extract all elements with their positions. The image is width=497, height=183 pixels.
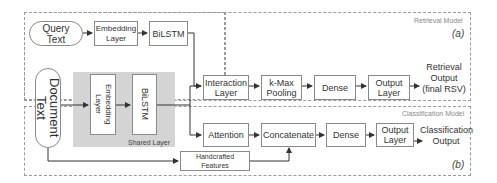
retrieval-dense-node: Dense (314, 75, 356, 100)
concatenate-node: Concatenate (261, 123, 316, 147)
interaction-layer-node: Interaction Layer (203, 75, 249, 100)
document-text-node: Document Text (35, 68, 61, 148)
query-text-node: Query Text (29, 21, 83, 46)
query-bilstm-node: BiLSTM (149, 21, 188, 46)
query-embedding-layer-node: Embedding Layer (94, 21, 138, 46)
shared-bilstm-node: BiLSTM (132, 74, 157, 135)
classification-output-label: Classification Output (420, 125, 472, 147)
retrieval-output-layer-node: Output Layer (368, 75, 410, 100)
shared-embedding-layer-node: Embedding Layer (90, 74, 116, 135)
classification-dense-node: Dense (326, 123, 366, 147)
retrieval-output-label: Retrieval Output (final RSV) (421, 62, 467, 95)
handcrafted-features-node: Handcrafted Features (180, 151, 250, 171)
k-max-pooling-node: k-Max Pooling (261, 75, 302, 100)
attention-node: Attention (203, 123, 249, 147)
classification-output-layer-node: Output Layer (376, 123, 414, 147)
